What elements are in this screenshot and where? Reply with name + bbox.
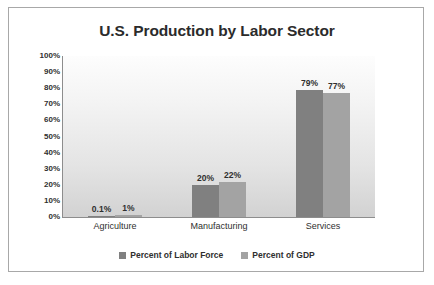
y-axis-tick-30: 30% (14, 164, 60, 173)
bar-value-label: 79% (301, 78, 318, 88)
y-axis-tick-20: 20% (14, 180, 60, 189)
bar-services-series1[interactable]: 79% (296, 90, 323, 217)
y-axis-tick-40: 40% (14, 148, 60, 157)
bar-services-series2[interactable]: 77% (323, 93, 350, 217)
category-label-manufacturing: Manufacturing (167, 221, 271, 231)
y-axis-tick-100: 100% (14, 51, 60, 60)
legend-item-2[interactable]: Percent of GDP (241, 250, 314, 260)
bar-value-label: 77% (328, 81, 345, 91)
bar-agriculture-series1[interactable]: 0.1% (88, 216, 115, 217)
y-axis-tick-0: 0% (14, 212, 60, 221)
bar-agriculture-series2[interactable]: 1% (115, 215, 142, 217)
legend-swatch-icon (119, 252, 126, 259)
y-axis-tick-80: 80% (14, 83, 60, 92)
y-axis-tick-50: 50% (14, 132, 60, 141)
bar-value-label: 22% (224, 170, 241, 180)
legend-label: Percent of GDP (252, 250, 314, 260)
chart-title: U.S. Production by Labor Sector (0, 22, 434, 40)
bar-value-label: 1% (122, 203, 134, 213)
y-axis-tick-70: 70% (14, 99, 60, 108)
bar-group-agriculture: 0.1%1% (88, 56, 142, 217)
bar-value-label: 20% (197, 173, 214, 183)
chart-legend: Percent of Labor ForcePercent of GDP (0, 250, 434, 260)
y-axis-tick-90: 90% (14, 67, 60, 76)
bar-group-manufacturing: 20%22% (192, 56, 246, 217)
category-label-services: Services (271, 221, 375, 231)
legend-swatch-icon (241, 252, 248, 259)
chart-page: U.S. Production by Labor Sector 100%90%8… (0, 0, 434, 285)
y-axis-line (62, 56, 63, 218)
y-axis-tick-10: 10% (14, 196, 60, 205)
legend-item-1[interactable]: Percent of Labor Force (119, 250, 223, 260)
bar-manufacturing-series1[interactable]: 20% (192, 185, 219, 217)
y-axis-tick-labels: 100%90%80%70%60%50%40%30%20%10%0% (8, 0, 60, 285)
legend-label: Percent of Labor Force (130, 250, 223, 260)
y-axis-tick-60: 60% (14, 115, 60, 124)
bar-manufacturing-series2[interactable]: 22% (219, 182, 246, 217)
category-label-agriculture: Agriculture (63, 221, 167, 231)
bar-group-services: 79%77% (296, 56, 350, 217)
bar-value-label: 0.1% (92, 204, 111, 214)
